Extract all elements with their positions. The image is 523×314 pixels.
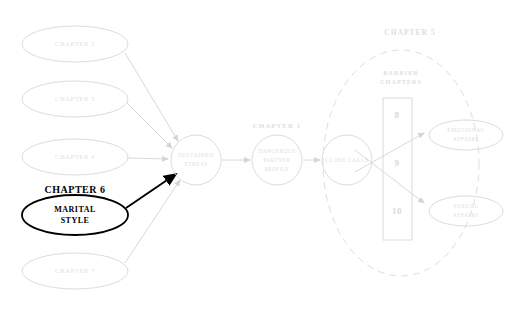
left-input-ch3-label: CHAPTER 3 — [55, 95, 95, 102]
partner-profile-label-line2: PARTNER — [263, 157, 290, 163]
node-dangerous-partner-profile: CHAPTER 1 DANGEROUS PARTNER PROFILE — [252, 122, 302, 185]
sexual-affairs-label-line2: AFFAIRS — [453, 212, 479, 218]
chapter6-heading: CHAPTER 6 — [45, 184, 106, 195]
chapter5-cluster-label: CHAPTER 5 — [384, 28, 435, 37]
left-input-ch2-label: CHAPTER 2 — [55, 40, 95, 47]
barrier-number-9: 9 — [394, 158, 399, 168]
arrow-ch4-to-sustained-stress — [128, 158, 168, 159]
barrier-chapters-heading-line1: BARRIER — [383, 69, 419, 76]
ellipse-shape — [429, 196, 503, 226]
barrier-number-8: 8 — [394, 110, 399, 120]
chapter1-heading: CHAPTER 1 — [253, 122, 301, 130]
emotional-affairs-label-line1: EMOTIONAL — [447, 127, 484, 133]
node-sustained-stress: SUSTAINED STRESS — [171, 135, 221, 185]
partner-profile-label-line1: DANGEROUS — [258, 148, 295, 154]
sexual-affairs-label-line1: SEXUAL — [454, 203, 479, 209]
sustained-stress-label-line2: STRESS — [184, 161, 208, 167]
marital-style-label-line2: STYLE — [61, 216, 90, 225]
barrier-chapters-heading-line2: CHAPTERS — [380, 78, 422, 85]
left-input-ch3: CHAPTER 3 — [22, 81, 128, 117]
partner-profile-label-line3: PROFILE — [264, 166, 289, 172]
arrow-close-calls-to-emotional-affairs — [355, 133, 424, 172]
arrow-ch3-to-sustained-stress — [127, 103, 172, 148]
left-input-ch7: CHAPTER 7 — [22, 253, 128, 289]
barrier-number-10: 10 — [392, 206, 402, 216]
circle-shape — [171, 135, 221, 185]
emotional-affairs-label-line2: AFFAIRS — [453, 136, 479, 142]
diagram-canvas: CHAPTER 5 CHAPTER 2 CHAPTER 3 CHAPTER 4 — [0, 0, 523, 314]
outcome-emotional-affairs: EMOTIONAL AFFAIRS — [429, 120, 503, 150]
highlight-node-marital-style: CHAPTER 6 MARITAL STYLE — [22, 184, 128, 235]
ellipse-shape — [429, 120, 503, 150]
left-input-ch2: CHAPTER 2 — [22, 26, 128, 62]
close-calls-label: CLOSE CALLS — [325, 157, 368, 163]
arrow-ch7-to-sustained-stress — [125, 180, 180, 263]
diagram-svg: CHAPTER 5 CHAPTER 2 CHAPTER 3 CHAPTER 4 — [0, 0, 523, 314]
sustained-stress-label-line1: SUSTAINED — [178, 152, 214, 158]
left-input-ch7-label: CHAPTER 7 — [55, 267, 95, 274]
outcome-sexual-affairs: SEXUAL AFFAIRS — [429, 196, 503, 226]
left-input-ch4: CHAPTER 4 — [22, 139, 128, 175]
node-close-calls: CLOSE CALLS — [322, 135, 372, 185]
left-input-ch4-label: CHAPTER 4 — [55, 153, 95, 160]
marital-style-label-line1: MARITAL — [54, 205, 96, 214]
arrow-marital-style-to-sustained-stress — [126, 174, 176, 208]
